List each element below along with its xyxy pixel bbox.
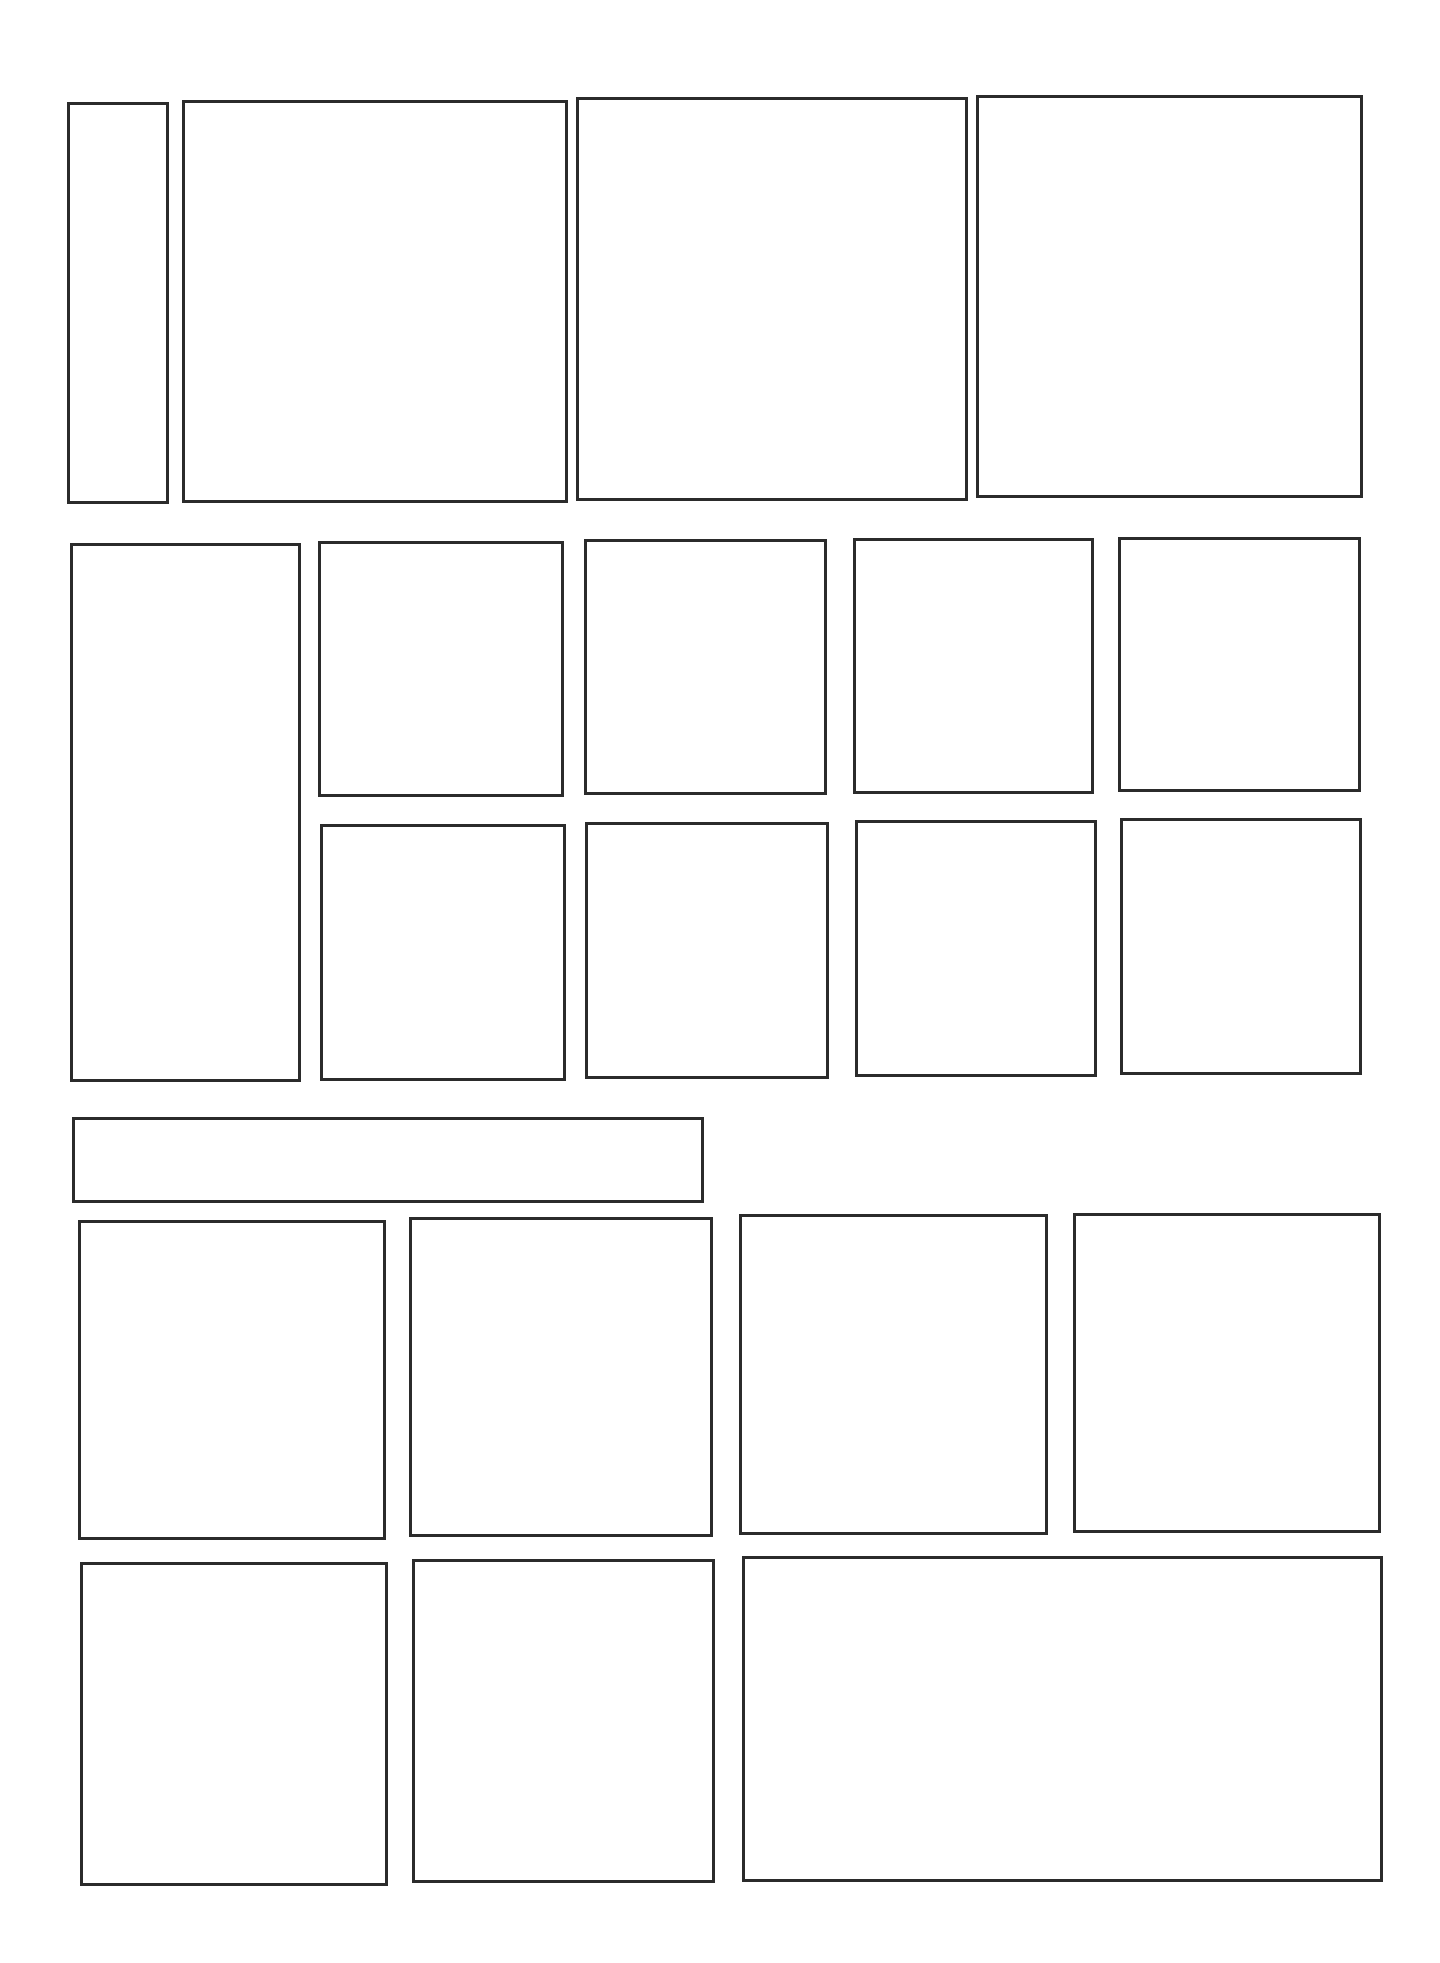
comic-panel-banner xyxy=(72,1117,704,1203)
comic-panel-r4-p1 xyxy=(80,1562,388,1886)
comic-panel-r2-p1 xyxy=(70,543,301,1082)
comic-panel-r3-p2 xyxy=(409,1217,713,1537)
comic-panel-r2-p6 xyxy=(320,824,566,1081)
comic-panel-r2-p8 xyxy=(855,820,1097,1077)
comic-page xyxy=(0,0,1440,1963)
comic-panel-r3-p4 xyxy=(1073,1213,1381,1533)
comic-panel-r4-p2 xyxy=(412,1559,715,1883)
comic-panel-r1-p4 xyxy=(976,95,1363,498)
comic-panel-r3-p3 xyxy=(739,1214,1048,1535)
comic-panel-r1-p3 xyxy=(576,97,968,501)
comic-panel-r2-p3 xyxy=(584,539,827,795)
comic-panel-r1-p2 xyxy=(182,100,568,503)
comic-panel-r2-p2 xyxy=(318,541,564,797)
comic-panel-r2-p7 xyxy=(585,822,829,1079)
comic-panel-r4-p3 xyxy=(742,1556,1383,1882)
comic-panel-r3-p1 xyxy=(78,1220,386,1540)
comic-panel-r2-p4 xyxy=(853,538,1094,794)
comic-panel-r1-p1 xyxy=(67,102,169,504)
comic-panel-r2-p9 xyxy=(1120,818,1362,1075)
comic-panel-r2-p5 xyxy=(1118,537,1361,792)
